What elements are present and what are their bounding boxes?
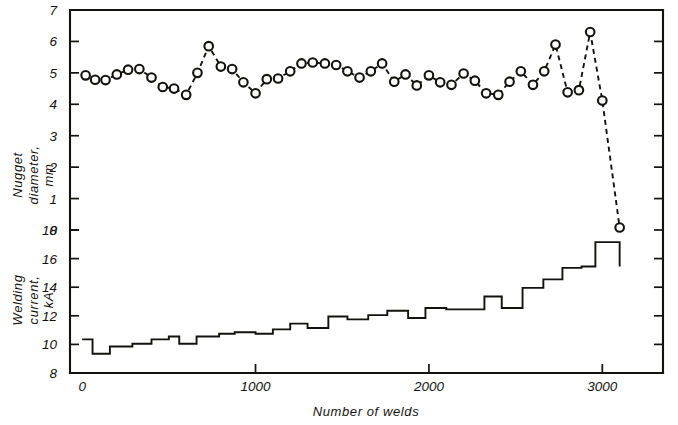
nugget-data-point bbox=[494, 91, 503, 100]
tick-label-nugget: 6 bbox=[49, 34, 57, 49]
nugget-data-point bbox=[425, 71, 434, 80]
nugget-data-point bbox=[263, 75, 272, 84]
current-axis-title-line-2: current, bbox=[26, 276, 41, 325]
nugget-diameter-line bbox=[86, 32, 620, 227]
nugget-axis-title-line-3: mm bbox=[41, 164, 56, 187]
nugget-data-point bbox=[517, 67, 526, 76]
nugget-data-point bbox=[471, 76, 480, 85]
nugget-data-point bbox=[575, 86, 584, 95]
nugget-data-point bbox=[239, 78, 248, 87]
nugget-data-point bbox=[355, 73, 364, 82]
tick-label-nugget: 5 bbox=[49, 66, 57, 81]
tick-label-current: 8 bbox=[49, 366, 57, 381]
nugget-data-point bbox=[217, 62, 226, 71]
nugget-data-point bbox=[540, 67, 549, 76]
nugget-data-point bbox=[158, 83, 167, 92]
tick-label-current: 18 bbox=[42, 223, 58, 238]
right-axis-ticks bbox=[654, 41, 663, 344]
nugget-data-point bbox=[297, 59, 306, 68]
nugget-data-point bbox=[412, 81, 421, 90]
chart-figure: 0123456781012141618 0100020003000 Nugget… bbox=[0, 0, 678, 425]
tick-label-x: 1000 bbox=[241, 379, 272, 394]
tick-label-current: 10 bbox=[42, 337, 58, 352]
nugget-data-point bbox=[505, 77, 514, 86]
nugget-data-point bbox=[551, 40, 560, 49]
nugget-data-point bbox=[482, 89, 491, 98]
nugget-data-point bbox=[615, 223, 624, 232]
nugget-data-point bbox=[343, 67, 352, 76]
nugget-data-point bbox=[182, 91, 191, 100]
nugget-data-point bbox=[436, 78, 445, 87]
current-axis-title-line-1: Welding bbox=[10, 274, 25, 325]
welding-current-step-line bbox=[82, 242, 620, 354]
nugget-data-point bbox=[308, 58, 317, 67]
tick-label-x: 2000 bbox=[413, 379, 445, 394]
tick-label-x: 0 bbox=[78, 379, 86, 394]
tick-label-nugget: 1 bbox=[49, 192, 57, 207]
nugget-data-point bbox=[147, 73, 156, 82]
nugget-data-point bbox=[274, 74, 283, 83]
nugget-data-point bbox=[135, 65, 144, 74]
nugget-data-point bbox=[81, 71, 90, 80]
nugget-data-point bbox=[459, 69, 468, 78]
nugget-data-point bbox=[390, 77, 399, 86]
tick-label-nugget: 4 bbox=[49, 97, 57, 112]
chart-canvas: 0123456781012141618 0100020003000 Nugget… bbox=[0, 0, 678, 425]
nugget-data-point bbox=[321, 59, 330, 68]
tick-label-nugget: 3 bbox=[49, 129, 57, 144]
nugget-data-point bbox=[401, 70, 410, 79]
nugget-axis-title-line-1: Nugget bbox=[10, 151, 25, 197]
nugget-data-point bbox=[286, 67, 295, 76]
nugget-data-point bbox=[91, 75, 100, 84]
tick-label-current: 12 bbox=[42, 309, 58, 324]
nugget-data-point bbox=[193, 69, 202, 78]
nugget-data-point bbox=[204, 42, 213, 51]
nugget-data-point bbox=[529, 81, 538, 90]
tick-label-nugget: 7 bbox=[49, 3, 57, 18]
nugget-data-point bbox=[113, 70, 122, 79]
nugget-diameter-markers bbox=[81, 28, 624, 232]
nugget-data-point bbox=[251, 89, 260, 98]
nugget-axis-title-line-2: diameter, bbox=[26, 146, 41, 205]
nugget-data-point bbox=[367, 67, 376, 76]
nugget-data-point bbox=[124, 65, 133, 74]
nugget-data-point bbox=[447, 81, 456, 90]
nugget-data-point bbox=[170, 84, 179, 93]
x-axis-title: Number of welds bbox=[313, 404, 420, 419]
left-axis-ticks: 0123456781012141618 bbox=[42, 3, 79, 381]
bottom-axis-ticks: 0100020003000 bbox=[78, 364, 617, 394]
tick-label-x: 3000 bbox=[587, 379, 618, 394]
nugget-data-point bbox=[586, 28, 595, 37]
current-axis-title-line-3: kA bbox=[41, 292, 56, 308]
tick-label-current: 16 bbox=[42, 252, 58, 267]
nugget-data-point bbox=[563, 88, 572, 97]
nugget-data-point bbox=[598, 96, 607, 105]
nugget-data-point bbox=[332, 61, 341, 70]
nugget-data-point bbox=[228, 65, 237, 74]
nugget-data-point bbox=[101, 76, 110, 85]
nugget-data-point bbox=[378, 59, 387, 68]
